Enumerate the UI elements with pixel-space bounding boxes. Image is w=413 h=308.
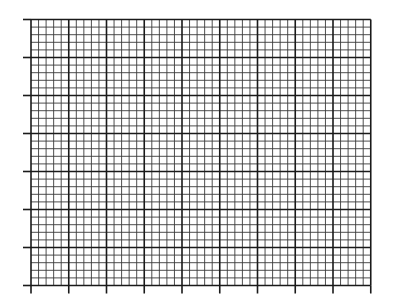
minor-lines	[31, 20, 371, 286]
graph-paper-grid	[0, 0, 413, 308]
major-lines	[31, 20, 371, 286]
